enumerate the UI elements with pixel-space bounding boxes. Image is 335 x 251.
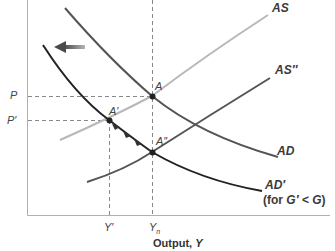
label-point-a-prime: A′	[109, 106, 118, 117]
label-point-a-double-prime: A″	[156, 136, 167, 147]
label-as: AS	[272, 2, 289, 14]
point-a-prime-dot	[107, 118, 113, 124]
point-a-dot	[150, 94, 156, 100]
y-tick-p-prime: P′	[7, 115, 16, 126]
x-tick-yn: Yn	[149, 222, 160, 235]
label-point-a: A	[155, 81, 162, 92]
y-tick-p: P	[10, 90, 17, 101]
as-curve	[60, 15, 268, 140]
left-shift-arrow-icon	[54, 41, 85, 53]
x-tick-y-prime: Y′	[104, 222, 113, 233]
chart-canvas	[0, 0, 335, 251]
label-as-double-prime: AS″	[275, 64, 297, 76]
label-ad: AD	[277, 145, 294, 157]
label-ad-prime: AD′	[265, 179, 285, 191]
movement-arrow-icon	[112, 124, 142, 146]
x-axis-title: Output, Y	[153, 238, 203, 249]
point-a-double-prime-dot	[150, 150, 156, 156]
label-ad-prime-note: (for G′ < G)	[263, 194, 326, 206]
